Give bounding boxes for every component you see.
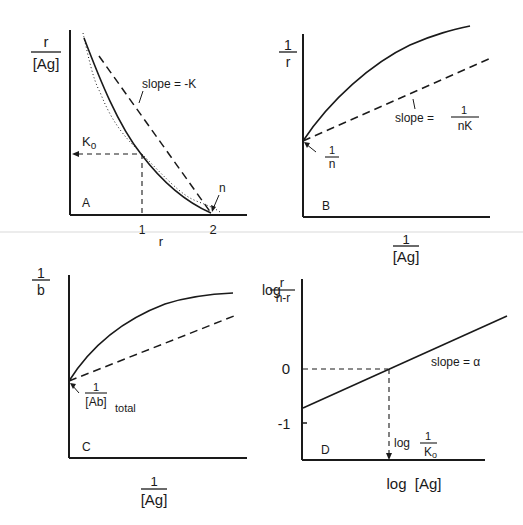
- panel-d-y-tick-0: 0: [282, 360, 290, 377]
- panel-b-slope-den: nK: [458, 119, 473, 133]
- panel-b-slope-prefix: slope =: [395, 111, 434, 125]
- panel-a-slope-label: slope = -K: [142, 77, 196, 91]
- binding-plots-figure: r [Ag] slope = -K Ko n A 1 2 r 1 r slope…: [0, 0, 523, 525]
- panel-a-y-label-num: r: [44, 33, 49, 50]
- panel-c-panel-label: C: [82, 440, 91, 454]
- panel-a-k0-arrowhead: [72, 151, 79, 157]
- panel-d-x-label: log [Ag]: [386, 475, 441, 492]
- panel-a-y-label-den: [Ag]: [33, 55, 60, 72]
- panel-b-panel-label: B: [322, 199, 330, 213]
- panel-d-y-label-den: n-r: [276, 291, 291, 305]
- panel-d-x-intercept-prefix: log: [394, 436, 410, 450]
- panel-a-n-label: n: [219, 181, 226, 195]
- panel-d-y-label-num: r: [280, 275, 285, 290]
- panel-b: 1 r slope = 1 nK 1 n B 1 [Ag]: [279, 26, 491, 265]
- panel-d-arrowhead: [386, 453, 392, 460]
- panel-b-y-label-num: 1: [284, 37, 292, 53]
- panel-b-slope-num: 1: [461, 104, 467, 116]
- panel-a-slope-pointer: [139, 91, 143, 103]
- panel-c-intercept-den: [Ab]: [85, 395, 106, 409]
- panel-a-x-tick-1: 1: [139, 223, 146, 237]
- panel-a-x-tick-2: 2: [209, 222, 216, 237]
- panel-d-x-intercept-den: Ko: [424, 445, 437, 460]
- panel-c-y-label-num: 1: [37, 265, 45, 281]
- panel-c-x-label-num: 1: [150, 474, 157, 489]
- panel-d-panel-label: D: [321, 443, 330, 457]
- panel-d-slope-label: slope = α: [431, 355, 480, 369]
- panel-a-x-label: r: [159, 234, 164, 249]
- panel-a-k0-label: Ko: [82, 134, 97, 151]
- panel-b-solid-curve: [303, 26, 470, 141]
- panel-d-y-tick-minus1: -1: [278, 416, 291, 432]
- panel-b-x-label-num: 1: [402, 232, 409, 247]
- panel-a-n-arrowhead: [211, 205, 216, 212]
- panel-c-intercept-sub: total: [115, 402, 136, 414]
- panel-b-slope-pointer: [413, 99, 415, 109]
- panel-d: log r n-r 0 -1 slope = α log 1 Ko D log …: [262, 275, 507, 492]
- panel-b-y-label-den: r: [286, 54, 291, 70]
- panel-c-y-label-den: b: [37, 282, 45, 298]
- panel-a-dotted-curve: [83, 33, 220, 212]
- panel-c-solid-curve: [69, 293, 233, 381]
- panel-b-intercept-num: 1: [329, 144, 335, 156]
- panel-b-x-label-den: [Ag]: [393, 248, 420, 265]
- panel-c: 1 b 1 [Ab] total C 1 [Ag]: [32, 265, 247, 508]
- panel-b-intercept-den: n: [329, 157, 336, 171]
- panel-a-panel-label: A: [82, 196, 90, 210]
- panel-a: r [Ag] slope = -K Ko n A 1 2 r: [31, 30, 247, 249]
- panel-c-intercept-num: 1: [93, 381, 99, 393]
- panel-c-x-label-den: [Ag]: [141, 491, 168, 508]
- panel-d-x-intercept-num: 1: [425, 430, 431, 442]
